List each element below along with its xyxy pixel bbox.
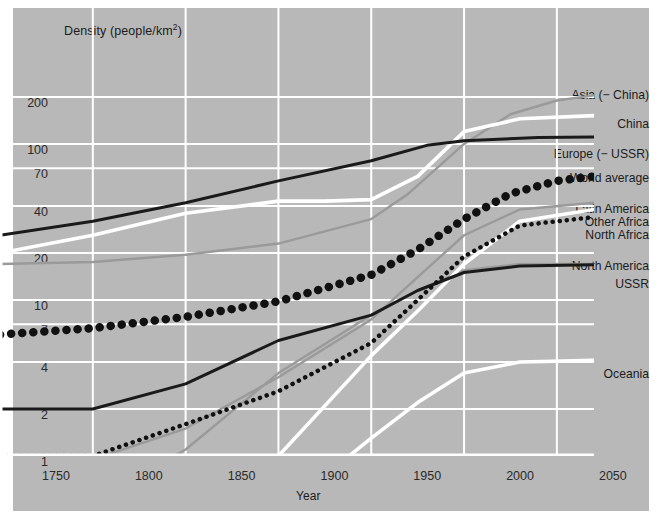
series-label: Oceania <box>604 367 649 381</box>
x-tick-label: 1850 <box>212 469 272 483</box>
series-line <box>93 203 594 456</box>
gridlines <box>0 0 594 456</box>
chart-plot-area <box>0 0 594 456</box>
series-line <box>0 265 594 409</box>
series-line <box>0 137 594 235</box>
series-label: China <box>617 117 649 131</box>
series-label: Other Africa <box>585 215 649 229</box>
x-tick-label: 2050 <box>583 469 643 483</box>
x-tick-label: 2000 <box>490 469 550 483</box>
series-layer <box>0 95 594 456</box>
x-tick-label: 1950 <box>397 469 457 483</box>
x-axis-title: Year <box>296 489 321 503</box>
x-tick-label: 1800 <box>119 469 179 483</box>
chart-page: Density (people/km2) Year 12471020407010… <box>0 0 662 519</box>
y-tick-label: 1 <box>10 455 48 469</box>
x-tick-label: 1750 <box>26 469 86 483</box>
x-tick-label: 1900 <box>304 469 364 483</box>
series-line <box>278 210 594 456</box>
series-label: North Africa <box>585 228 649 242</box>
series-label: USSR <box>615 277 649 291</box>
axis-lines <box>0 0 594 456</box>
